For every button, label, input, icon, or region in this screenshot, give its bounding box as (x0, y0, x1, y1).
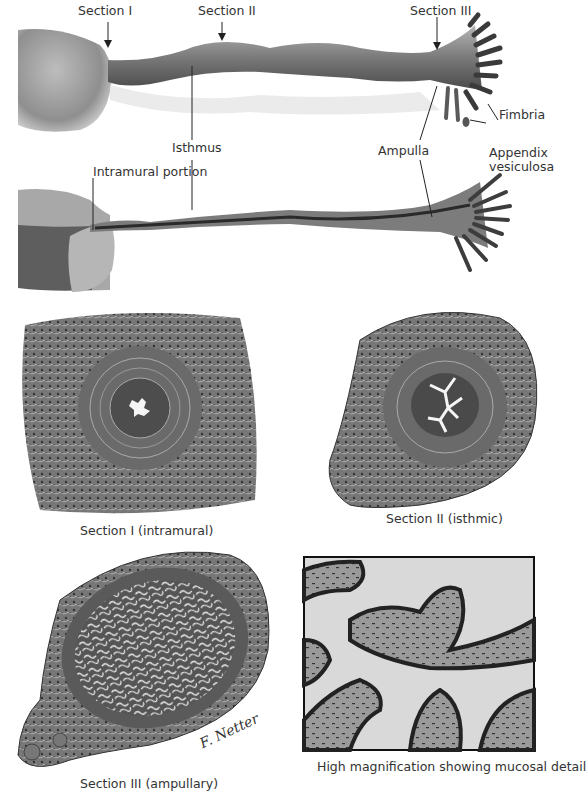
label-intramural-portion: Intramural portion (93, 165, 207, 179)
arrow-section-2-icon (218, 33, 226, 41)
label-section-1: Section I (78, 4, 132, 18)
caption-section-1: Section I (intramural) (80, 523, 213, 538)
sectioned-tube-view (18, 175, 510, 292)
mesosalpinx (110, 85, 440, 115)
label-section-3: Section III (410, 4, 471, 18)
tube-body (108, 25, 482, 90)
label-appendix-line2: vesiculosa (489, 160, 554, 174)
arrow-section-1-icon (104, 40, 112, 48)
uterus-body (18, 29, 112, 132)
label-section-2: Section II (198, 4, 256, 18)
label-isthmus: Isthmus (172, 141, 222, 155)
caption-section-3: Section III (ampullary) (80, 776, 218, 791)
label-ampulla: Ampulla (378, 144, 429, 158)
section-2-crosssection (329, 312, 537, 507)
label-fimbria: Fimbria (499, 108, 545, 122)
section-1-crosssection (22, 313, 257, 513)
caption-section-2: Section II (isthmic) (386, 511, 503, 526)
appendix-vesiculosa-shape (463, 117, 470, 127)
label-appendix-line1: Appendix (489, 146, 548, 160)
caption-high-magnification: High magnification showing mucosal detai… (317, 759, 586, 774)
high-magnification-panel (304, 557, 534, 750)
